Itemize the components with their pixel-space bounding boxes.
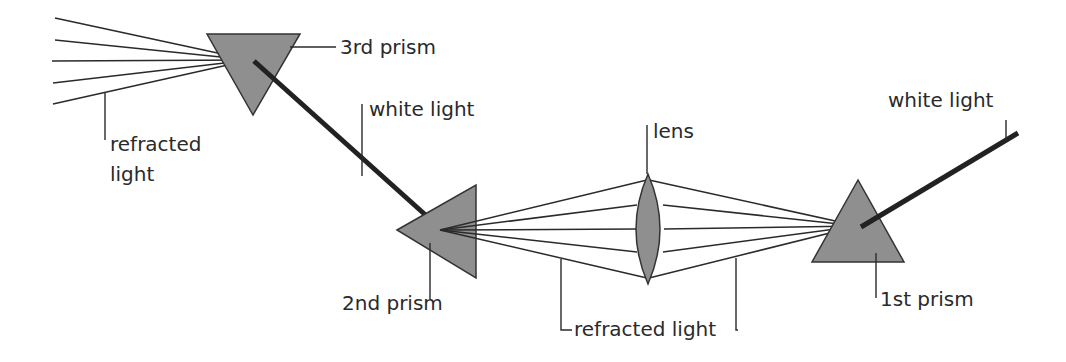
third-prism	[207, 34, 300, 115]
leader-refracted-bottom	[561, 259, 572, 330]
label-refracted-left-1: refracted	[110, 132, 201, 156]
label-second-prism: 2nd prism	[342, 291, 443, 315]
white-light-beam-right	[861, 133, 1018, 227]
lens	[636, 174, 660, 284]
prism-diagram: 3rd prism white light refracted light le…	[0, 0, 1066, 362]
label-white-light-middle: white light	[369, 97, 475, 121]
leader-refracted-bottom-right	[736, 258, 738, 330]
refracted-rays-left	[52, 18, 250, 104]
label-lens: lens	[653, 119, 694, 143]
label-refracted-bottom: refracted light	[574, 317, 716, 341]
label-first-prism: 1st prism	[880, 287, 974, 311]
white-light-beam-middle	[254, 61, 440, 228]
label-refracted-left-2: light	[110, 162, 154, 186]
first-prism	[812, 180, 904, 262]
label-white-light-right: white light	[888, 88, 994, 112]
label-third-prism: 3rd prism	[340, 35, 436, 59]
